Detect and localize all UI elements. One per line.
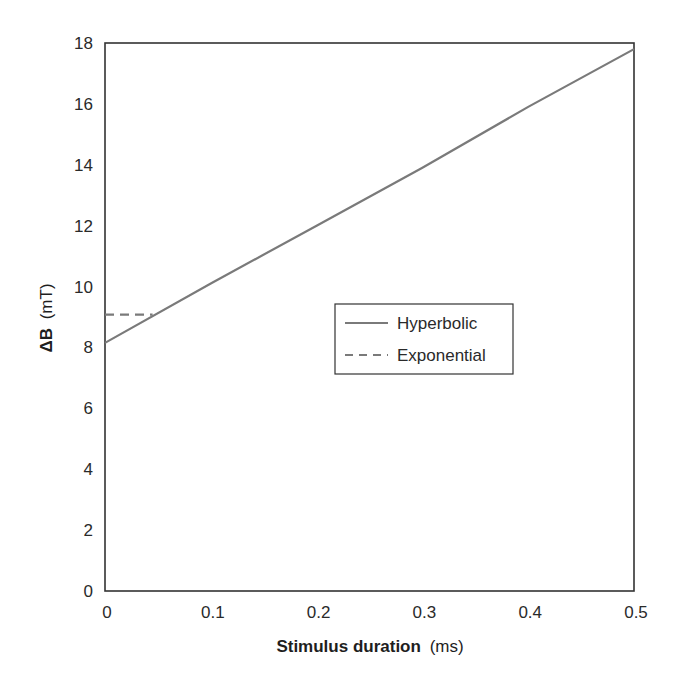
legend-label-hyperbolic: Hyperbolic <box>397 314 478 333</box>
x-tick-label: 0.2 <box>307 603 331 622</box>
legend-label-exponential: Exponential <box>397 346 486 365</box>
y-tick-label: 8 <box>84 338 93 357</box>
y-axis-title-unit: (mT) <box>37 283 56 319</box>
y-axis-title-symbol: ΔB <box>37 328 56 353</box>
x-tick-label: 0.3 <box>413 603 437 622</box>
y-tick-label: 14 <box>74 156 93 175</box>
x-axis-title-label: Stimulus duration <box>276 637 421 656</box>
x-axis-title-unit: (ms) <box>430 637 464 656</box>
chart: 024681012141618 00.10.20.30.40.5 ΔB (mT)… <box>0 0 675 699</box>
y-tick-label: 12 <box>74 217 93 236</box>
x-axis-title: Stimulus duration (ms) <box>276 637 463 656</box>
y-tick-label: 4 <box>84 460 93 479</box>
series-layer <box>105 49 634 343</box>
y-tick-label: 2 <box>84 521 93 540</box>
x-tick-label: 0.5 <box>624 603 648 622</box>
y-tick-label: 18 <box>74 34 93 53</box>
x-tick-label: 0.1 <box>201 603 225 622</box>
y-tick-label: 0 <box>84 582 93 601</box>
y-tick-label: 10 <box>74 278 93 297</box>
y-tick-label: 6 <box>84 399 93 418</box>
x-tick-label: 0.4 <box>518 603 542 622</box>
x-axis-ticks: 00.10.20.30.40.5 <box>102 603 648 622</box>
legend: Hyperbolic Exponential <box>335 304 513 374</box>
y-axis-title: ΔB (mT) <box>37 283 56 352</box>
y-axis-ticks: 024681012141618 <box>74 34 93 601</box>
x-tick-label: 0 <box>102 603 111 622</box>
y-tick-label: 16 <box>74 95 93 114</box>
series-line-hyperbolic <box>105 49 634 343</box>
